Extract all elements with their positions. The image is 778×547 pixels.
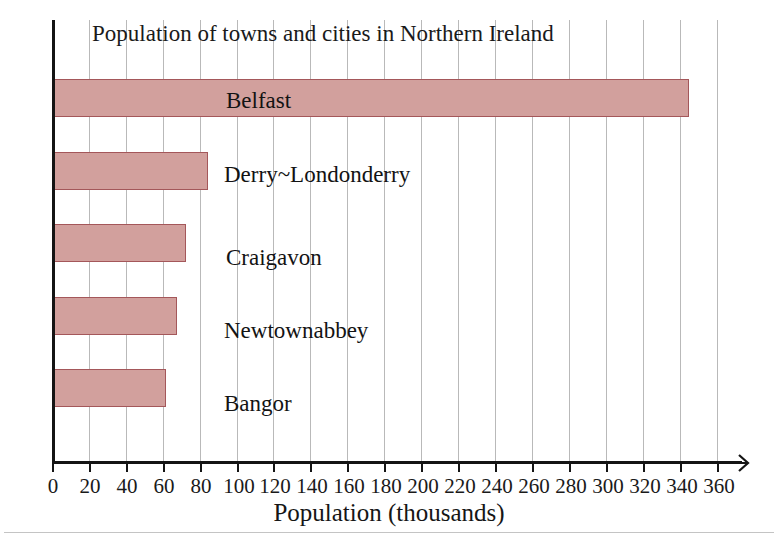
x-tick-label: 320 (629, 476, 661, 497)
x-tick-label: 120 (259, 476, 291, 497)
bar-craigavon (52, 224, 186, 262)
x-tick-label: 260 (518, 476, 550, 497)
x-tick-label: 160 (333, 476, 365, 497)
x-tick (495, 461, 497, 472)
gridline (717, 20, 718, 462)
bottom-divider (4, 532, 774, 533)
y-axis-line (52, 20, 55, 464)
bar-bangor (52, 369, 166, 407)
x-tick (421, 461, 423, 472)
x-tick-label: 60 (154, 476, 175, 497)
x-tick (310, 461, 312, 472)
x-tick (384, 461, 386, 472)
x-tick (237, 461, 239, 472)
x-tick (717, 461, 719, 472)
chart-figure: Population of towns and cities in Northe… (0, 0, 778, 547)
x-tick-label: 220 (444, 476, 476, 497)
bar-newtownabbey (52, 297, 177, 335)
x-tick (126, 461, 128, 472)
bar-label-newtownabbey: Newtownabbey (224, 319, 368, 342)
x-tick (680, 461, 682, 472)
x-tick-label: 100 (223, 476, 255, 497)
bar-label-belfast: Belfast (226, 89, 291, 112)
x-tick-label: 20 (80, 476, 101, 497)
x-tick-label: 360 (703, 476, 735, 497)
chart-title: Population of towns and cities in Northe… (92, 22, 554, 45)
x-tick (532, 461, 534, 472)
x-tick-label: 240 (481, 476, 513, 497)
x-tick-label: 340 (666, 476, 698, 497)
x-tick (606, 461, 608, 472)
x-axis-arrow-icon (730, 452, 750, 474)
x-tick-label: 300 (592, 476, 624, 497)
bar-label-craigavon: Craigavon (226, 246, 322, 269)
bar-derry-londonderry (52, 152, 208, 190)
bar-label-bangor: Bangor (224, 392, 292, 415)
x-tick (643, 461, 645, 472)
x-tick-label: 40 (117, 476, 138, 497)
bar-belfast (52, 79, 689, 117)
x-tick-label: 140 (296, 476, 328, 497)
x-axis-line (52, 461, 742, 464)
x-tick-label: 0 (48, 476, 59, 497)
x-tick (569, 461, 571, 472)
x-tick-label: 200 (407, 476, 439, 497)
x-tick-label: 280 (555, 476, 587, 497)
x-tick (163, 461, 165, 472)
bar-label-derry-londonderry: Derry~Londonderry (224, 163, 410, 186)
x-tick (52, 461, 54, 472)
x-tick (347, 461, 349, 472)
x-tick-label: 80 (191, 476, 212, 497)
x-tick (89, 461, 91, 472)
x-tick (200, 461, 202, 472)
x-axis-title: Population (thousands) (0, 500, 778, 525)
x-tick-label: 180 (370, 476, 402, 497)
x-tick (273, 461, 275, 472)
x-tick (458, 461, 460, 472)
